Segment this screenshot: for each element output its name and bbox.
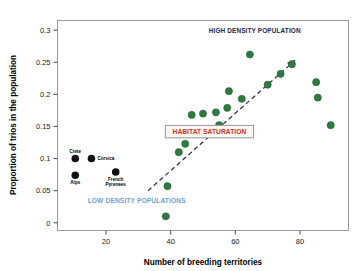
x-tick-label: 60 <box>231 237 239 246</box>
data-point-black <box>112 168 120 176</box>
point-label: Crete <box>69 149 81 154</box>
data-point-green <box>246 51 253 58</box>
data-point-green <box>175 149 182 156</box>
data-point-green <box>277 70 284 77</box>
data-point-green <box>188 111 195 118</box>
x-tick-label: 40 <box>166 237 174 246</box>
data-point-black <box>71 155 79 163</box>
data-point-green <box>264 81 271 88</box>
data-point-green <box>288 61 295 68</box>
x-tick-label: 20 <box>102 237 110 246</box>
y-tick-label: 0.3 <box>40 26 50 35</box>
point-label: Alps <box>70 180 80 185</box>
y-tick-label: 0 <box>46 219 50 228</box>
data-point-green <box>164 183 171 190</box>
data-point-green <box>225 88 232 95</box>
scatter-figure: 00.050.10.150.20.250.3 20406080 CreteCor… <box>0 0 362 271</box>
y-tick-label: 0.25 <box>36 58 51 67</box>
data-point-green <box>182 140 189 147</box>
y-tick-label: 0.15 <box>36 122 51 131</box>
data-point-green <box>327 122 334 129</box>
scatter-plot-svg: 00.050.10.150.20.250.3 20406080 CreteCor… <box>0 0 362 271</box>
data-point-green <box>199 110 206 117</box>
y-tick-label: 0.05 <box>36 186 51 195</box>
x-tick-label: 80 <box>296 237 304 246</box>
x-axis-title: Number of breeding territories <box>144 258 263 267</box>
data-point-black <box>71 171 79 179</box>
y-axis-title: Proportion of trios in the population <box>9 55 18 195</box>
data-point-green <box>314 94 321 101</box>
data-point-green <box>224 104 231 111</box>
data-point-green <box>212 109 219 116</box>
y-tick-label: 0.1 <box>40 154 50 163</box>
annotation-high-density: HIGH DENSITY POPULATION <box>209 27 301 34</box>
data-point-green <box>313 79 320 86</box>
annotation-low-density: LOW DENSITY POPULATIONS <box>88 197 187 204</box>
annotation-habitat-saturation: HABITAT SATURATION <box>173 128 247 135</box>
data-point-green <box>238 95 245 102</box>
y-tick-label: 0.2 <box>40 90 50 99</box>
point-label: FrenchPyrenees <box>105 177 126 187</box>
data-point-black <box>88 155 96 163</box>
point-label: Corsica <box>97 156 114 161</box>
data-point-green <box>162 213 169 220</box>
